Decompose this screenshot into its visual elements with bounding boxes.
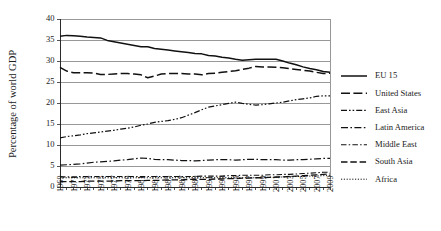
x-tick-label: 2003 [286,175,295,192]
legend-label-east-asia: East Asia [375,105,407,115]
x-tick-label: 2007 [313,175,322,192]
x-tick-label: 1987 [178,175,187,192]
legend-label-south-asia: South Asia [375,156,413,166]
gdp-share-line-chart: 0510152025303540 19691971197319751977197… [0,0,441,231]
y-tick-label: 5 [50,160,54,170]
chart-legend: EU 15United StatesEast AsiaLatin America… [341,70,425,183]
data-series [60,35,330,181]
legend-label-africa: Africa [375,174,397,184]
x-tick-label: 1985 [164,175,173,192]
chart-container: 0510152025303540 19691971197319751977197… [0,0,441,231]
series-line-eu-15 [60,35,330,72]
x-tick-label: 2005 [299,175,308,192]
series-line-united-states [60,66,330,77]
legend-label-eu-15: EU 15 [375,70,397,80]
y-tick-label: 10 [46,139,55,149]
y-tick-label: 25 [46,76,55,86]
x-tick-label: 1975 [97,175,106,192]
y-axis-ticks: 0510152025303540 [46,13,60,191]
y-tick-label: 15 [46,118,55,128]
y-tick-label: 35 [46,34,55,44]
legend-label-latin-america: Latin America [375,122,425,132]
x-tick-label: 2001 [272,175,281,192]
y-tick-label: 30 [46,55,55,65]
x-tick-label: 2009 [326,175,335,192]
series-line-latin-america [60,158,330,165]
legend-label-united-states: United States [375,88,422,98]
x-tick-label: 1973 [83,175,92,192]
y-axis-title: Percentage of world GDP [7,50,18,158]
legend-label-middle-east: Middle East [375,139,417,149]
series-line-east-asia [60,96,330,138]
y-tick-label: 20 [46,97,55,107]
y-tick-label: 0 [50,181,54,191]
y-tick-label: 40 [46,13,55,23]
